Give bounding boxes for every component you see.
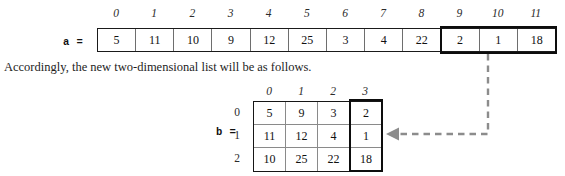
matrix-b-cell: 25 xyxy=(286,148,318,171)
matrix-b-cell: 10 xyxy=(254,148,286,171)
array-a-cell: 10 xyxy=(174,29,212,51)
table-row: 5 9 3 2 xyxy=(254,102,382,125)
matrix-b-row-index-2: 2 xyxy=(228,147,246,170)
array-a-index-0: 0 xyxy=(97,8,135,20)
array-a-cell: 18 xyxy=(518,29,556,51)
array-a-cell: 4 xyxy=(365,29,403,51)
table-row: 10 25 22 18 xyxy=(254,148,382,171)
array-a-index-11: 11 xyxy=(517,8,555,20)
array-a-index-10: 10 xyxy=(479,8,517,20)
matrix-b-cell: 5 xyxy=(254,102,286,125)
array-a-index-6: 6 xyxy=(326,8,364,20)
matrix-b-col-index-1: 1 xyxy=(285,86,317,98)
array-a-cell: 22 xyxy=(403,29,441,51)
matrix-b: 5 9 3 2 11 12 4 1 10 25 22 18 xyxy=(253,101,383,172)
array-a-index-9: 9 xyxy=(440,8,478,20)
array-a-cell: 9 xyxy=(212,29,250,51)
matrix-b-cell: 3 xyxy=(318,102,350,125)
array-a-cell: 25 xyxy=(289,29,327,51)
matrix-b-col-index-0: 0 xyxy=(253,86,285,98)
array-a-index-header: 0 1 2 3 4 5 6 7 8 9 10 11 xyxy=(97,8,555,20)
matrix-b-cell: 18 xyxy=(350,148,382,171)
matrix-b-col-index-2: 2 xyxy=(317,86,349,98)
matrix-b-col-index-3: 3 xyxy=(349,86,381,98)
array-a-cell: 2 xyxy=(441,29,479,51)
matrix-b-cell: 9 xyxy=(286,102,318,125)
array-a-cell: 5 xyxy=(98,29,136,51)
figure-root: 0 1 2 3 4 5 6 7 8 9 10 11 a = 5 11 10 9 … xyxy=(0,0,565,176)
array-a-cell: 12 xyxy=(251,29,289,51)
array-a-cell: 1 xyxy=(480,29,518,51)
caption-text: Accordingly, the new two-dimensional lis… xyxy=(4,60,311,75)
array-a-index-1: 1 xyxy=(135,8,173,20)
array-a-index-7: 7 xyxy=(364,8,402,20)
array-a-cell: 11 xyxy=(136,29,174,51)
matrix-b-cell: 4 xyxy=(318,125,350,148)
table-row: 11 12 4 1 xyxy=(254,125,382,148)
matrix-b-cell: 12 xyxy=(286,125,318,148)
array-a-index-2: 2 xyxy=(173,8,211,20)
array-a-index-3: 3 xyxy=(211,8,249,20)
array-a: 5 11 10 9 12 25 3 4 22 2 1 18 xyxy=(97,28,557,52)
array-a-label: a = xyxy=(63,36,83,48)
array-a-container: 5 11 10 9 12 25 3 4 22 2 1 18 xyxy=(97,28,557,52)
matrix-b-cell: 1 xyxy=(350,125,382,148)
array-a-cell: 3 xyxy=(327,29,365,51)
array-a-index-5: 5 xyxy=(288,8,326,20)
array-a-index-4: 4 xyxy=(250,8,288,20)
matrix-b-cell: 2 xyxy=(350,102,382,125)
matrix-b-row-index-0: 0 xyxy=(228,101,246,124)
matrix-b-cell: 22 xyxy=(318,148,350,171)
matrix-b-cell: 11 xyxy=(254,125,286,148)
matrix-b-column-header: 0 1 2 3 xyxy=(253,86,381,98)
array-a-index-8: 8 xyxy=(402,8,440,20)
matrix-b-label: b = xyxy=(216,126,236,138)
